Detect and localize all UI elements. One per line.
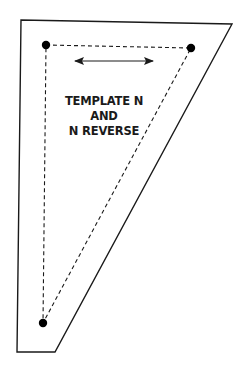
outer-cutting-outline xyxy=(17,20,232,352)
template-label-line-1: TEMPLATE N xyxy=(65,94,143,108)
corner-dot-top-left xyxy=(42,41,50,49)
template-label-line-2: AND xyxy=(90,109,117,123)
corner-dot-bottom xyxy=(39,319,47,327)
corner-dot-top-right xyxy=(187,44,195,52)
template-diagram: TEMPLATE N AND N REVERSE xyxy=(0,0,246,368)
template-label-line-3: N REVERSE xyxy=(69,124,140,138)
